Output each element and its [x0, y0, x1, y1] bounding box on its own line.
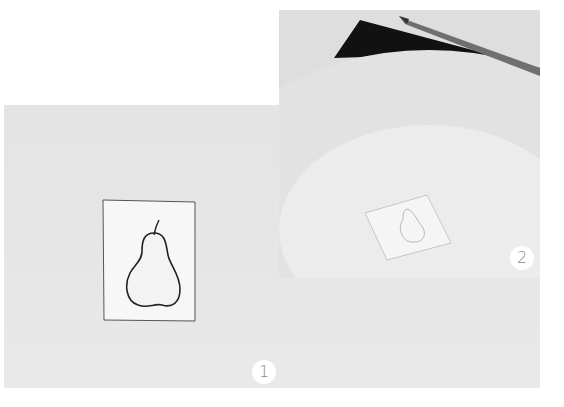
plate-scene-illustration	[279, 10, 540, 278]
photo-number-badge-1: 1	[252, 360, 276, 384]
photo-number-badge-2: 2	[510, 246, 534, 270]
photo-plate-with-card: 2	[279, 10, 540, 278]
